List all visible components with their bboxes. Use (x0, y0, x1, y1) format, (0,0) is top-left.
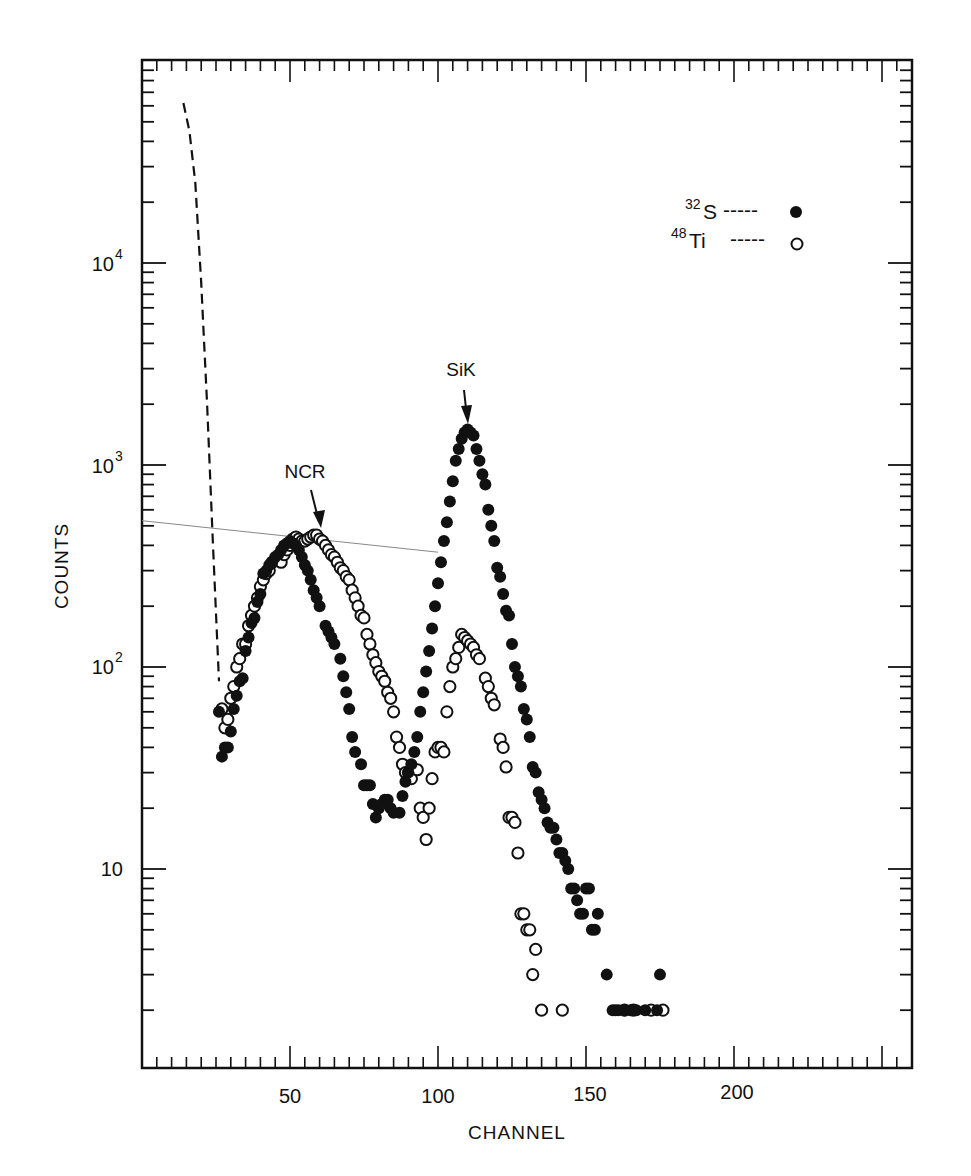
data-point (512, 847, 523, 858)
svg-text:10: 10 (101, 858, 123, 880)
x-axis-title: CHANNEL (468, 1122, 566, 1143)
data-point (423, 645, 435, 657)
data-point (432, 577, 444, 589)
filled-circle-marker-icon (790, 206, 802, 218)
data-point (337, 670, 349, 682)
data-point (394, 807, 406, 819)
data-point (489, 699, 500, 710)
data-point (388, 706, 399, 717)
svg-text:4: 4 (115, 246, 123, 262)
data-point (470, 443, 482, 455)
data-point (240, 645, 252, 657)
y-axis-title: COUNTS (51, 523, 72, 609)
data-point (536, 1005, 547, 1016)
data-point (476, 468, 488, 480)
data-point (483, 681, 494, 692)
data-point (530, 944, 541, 955)
chart: 50 100 150 200 CHANNEL 10 4 10 3 10 2 10… (0, 0, 971, 1176)
data-point (305, 574, 317, 586)
data-point (521, 713, 533, 725)
data-point (411, 731, 423, 743)
data-point (385, 693, 396, 704)
data-point (515, 681, 527, 693)
data-point (482, 504, 494, 516)
data-point (639, 1004, 651, 1016)
data-point (562, 863, 574, 875)
data-point (447, 475, 459, 487)
data-point (601, 969, 613, 981)
data-point (651, 1004, 663, 1016)
svg-text:3: 3 (115, 448, 123, 464)
data-point (571, 894, 583, 906)
data-point (438, 746, 449, 757)
data-point (498, 742, 509, 753)
data-point (414, 706, 426, 718)
data-point (420, 665, 432, 677)
data-point (408, 746, 420, 758)
data-point (450, 455, 462, 467)
svg-text:S: S (703, 200, 717, 223)
svg-text:10: 10 (92, 253, 114, 275)
data-point (494, 571, 506, 583)
data-point (405, 758, 417, 770)
svg-text:48: 48 (671, 225, 687, 241)
data-point (248, 612, 260, 624)
data-point (343, 703, 355, 715)
svg-text:-----: ----- (730, 227, 765, 250)
data-point (497, 588, 509, 600)
data-point (379, 676, 390, 687)
data-point (557, 1005, 568, 1016)
data-point (222, 741, 234, 753)
data-point (518, 908, 529, 919)
data-point (328, 638, 340, 650)
data-point (340, 686, 352, 698)
data-point (539, 802, 551, 814)
data-point (237, 672, 249, 684)
data-point (429, 600, 441, 612)
data-point (426, 623, 438, 635)
data-point (364, 638, 375, 649)
data-point (524, 731, 536, 743)
data-point (583, 883, 595, 895)
data-point (450, 653, 461, 664)
y-tick-label-10: 10 (101, 858, 123, 880)
svg-text:10: 10 (92, 455, 114, 477)
data-point (518, 703, 530, 715)
data-point (228, 703, 240, 715)
data-point (512, 670, 524, 682)
data-point (500, 761, 511, 772)
data-point (346, 731, 358, 743)
data-point (654, 969, 666, 981)
data-point (421, 834, 432, 845)
data-point (527, 969, 538, 980)
svg-text:32: 32 (685, 196, 701, 212)
data-point (453, 443, 465, 455)
data-point (396, 790, 408, 802)
data-point (444, 681, 455, 692)
data-point (509, 817, 520, 828)
data-point (444, 495, 456, 507)
data-point (358, 612, 369, 623)
svg-text:Ti: Ti (689, 229, 706, 252)
data-point (479, 479, 491, 491)
data-point (441, 706, 452, 717)
data-point (568, 883, 580, 895)
x-tick-label-100: 100 (421, 1085, 454, 1107)
svg-text:SiK: SiK (446, 359, 476, 380)
data-point (506, 638, 518, 650)
data-point (474, 653, 485, 664)
data-point (417, 686, 429, 698)
data-point (364, 779, 376, 791)
data-point (550, 833, 562, 845)
data-point (485, 520, 497, 532)
data-point (577, 908, 589, 920)
data-point (592, 908, 604, 920)
data-point (589, 924, 601, 936)
svg-text:10: 10 (92, 656, 114, 678)
data-point (314, 600, 326, 612)
data-point (468, 429, 480, 441)
svg-text:-----: ----- (723, 198, 758, 221)
data-point (334, 653, 346, 665)
x-tick-label-200: 200 (720, 1081, 753, 1103)
data-point (438, 535, 450, 547)
